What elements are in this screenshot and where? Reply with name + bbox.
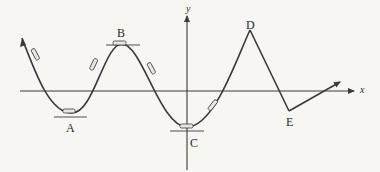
track-segment-d-e xyxy=(250,30,289,111)
track-segment-e-out xyxy=(289,82,340,111)
point-label-a: A xyxy=(66,122,75,134)
point-label-c: C xyxy=(190,137,198,149)
block-rising-to-b xyxy=(89,58,98,71)
y-axis-label: y xyxy=(186,4,190,14)
block-rising-from-c xyxy=(208,99,219,111)
block-at-b xyxy=(113,41,126,45)
block-at-c xyxy=(180,124,193,128)
block-left-slope xyxy=(31,48,40,60)
block-falling-from-b xyxy=(147,62,156,74)
point-label-b: B xyxy=(117,27,125,39)
x-axis-label: x xyxy=(360,85,364,95)
diagram: x y A B C D E xyxy=(0,0,380,172)
block-at-a xyxy=(63,109,75,113)
point-label-e: E xyxy=(286,116,293,128)
point-label-d: D xyxy=(246,19,255,31)
